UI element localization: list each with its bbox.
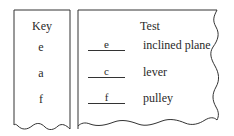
term-label: pulley <box>143 91 173 105</box>
key-title: Key <box>32 19 52 33</box>
key-item: f <box>39 92 43 106</box>
answer-value: e <box>104 38 109 50</box>
answer-blank[interactable]: c <box>88 64 125 78</box>
test-title: Test <box>140 19 160 33</box>
answer-underline <box>88 50 125 51</box>
key-item: e <box>38 40 43 54</box>
answer-value: c <box>104 65 109 77</box>
answer-blank[interactable]: f <box>88 90 125 104</box>
key-item: a <box>38 66 43 80</box>
answer-underline <box>88 77 125 78</box>
answer-underline <box>88 103 125 104</box>
term-label: inclined plane <box>143 38 211 52</box>
term-label: lever <box>143 65 167 79</box>
answer-value: f <box>105 91 109 103</box>
answer-blank[interactable]: e <box>88 37 125 51</box>
